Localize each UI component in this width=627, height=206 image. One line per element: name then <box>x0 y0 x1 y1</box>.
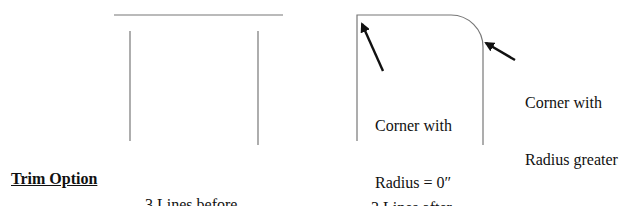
label-line: Radius = 0″ <box>375 173 452 192</box>
before-caption-line: 3 Lines before <box>145 195 237 206</box>
arrow-corner-zero <box>362 24 383 71</box>
label-line: Corner with <box>375 116 452 135</box>
label-line: Corner with <box>525 93 618 112</box>
arrow-corner-radius <box>486 43 515 60</box>
left-corner-label: Corner with Radius = 0″ <box>375 78 452 206</box>
section-title: Trim Option <box>11 170 97 188</box>
before-lines <box>114 15 283 145</box>
label-line: Radius greater <box>525 150 618 169</box>
before-caption: 3 Lines before using Fillet <box>145 157 237 206</box>
right-corner-label: Corner with Radius greater than 0. In th… <box>525 55 618 206</box>
